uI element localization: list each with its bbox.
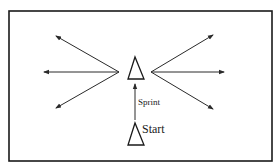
start-label: Start (142, 122, 165, 136)
drill-diagram: Sprint Start (0, 0, 278, 164)
sprint-label: Sprint (138, 97, 161, 107)
